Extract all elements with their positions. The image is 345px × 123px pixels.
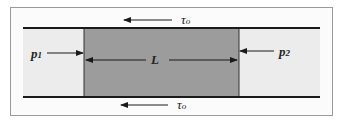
control-volume (84, 28, 239, 97)
p2-label: p2 (279, 45, 290, 58)
shear-top-label: τo (181, 13, 190, 26)
shear-bottom-label: τo (177, 98, 186, 111)
pipe-diagram (0, 0, 345, 123)
length-label: L (151, 53, 159, 66)
p1-label: p1 (31, 47, 42, 60)
